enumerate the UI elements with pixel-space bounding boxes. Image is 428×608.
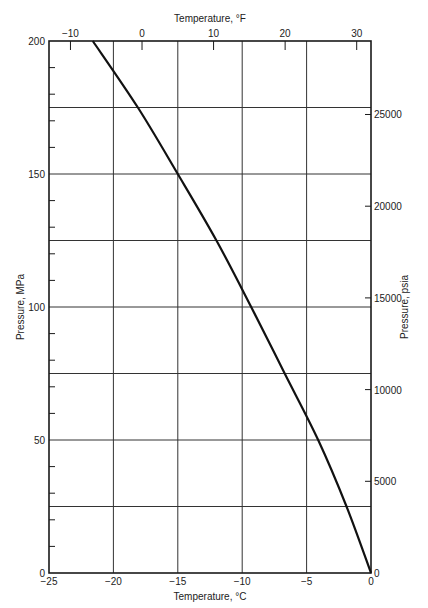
x-tick-label: −10: [234, 576, 251, 587]
right-tick-label: 0: [374, 568, 380, 579]
x-tick-label: −15: [169, 576, 186, 587]
chart: 050100150200−25−20−15−10−50−100102030050…: [0, 0, 428, 608]
top-tick-label: 20: [280, 28, 292, 39]
top-tick-label: −10: [62, 28, 79, 39]
top-x-axis-label: Temperature, °F: [174, 13, 246, 24]
right-tick-label: 10000: [374, 385, 402, 396]
x-axis-label: Temperature, °C: [174, 591, 247, 602]
y-tick-label: 50: [34, 435, 46, 446]
y-tick-label: 150: [28, 169, 45, 180]
x-tick-label: −25: [41, 576, 58, 587]
right-y-axis-label: Pressure, psia: [399, 275, 410, 339]
right-tick-label: 15000: [374, 293, 402, 304]
y-tick-label: 200: [28, 36, 45, 47]
axis-ticks: [49, 41, 371, 546]
y-tick-label: 100: [28, 302, 45, 313]
right-tick-label: 25000: [374, 109, 402, 120]
top-tick-label: 30: [351, 28, 363, 39]
right-tick-label: 5000: [374, 476, 397, 487]
right-tick-label: 20000: [374, 201, 402, 212]
x-tick-label: −20: [105, 576, 122, 587]
gridlines: [49, 41, 371, 573]
x-tick-label: −5: [301, 576, 313, 587]
top-tick-label: 10: [208, 28, 220, 39]
y-axis-label: Pressure, MPa: [15, 273, 26, 340]
top-tick-label: 0: [139, 28, 145, 39]
